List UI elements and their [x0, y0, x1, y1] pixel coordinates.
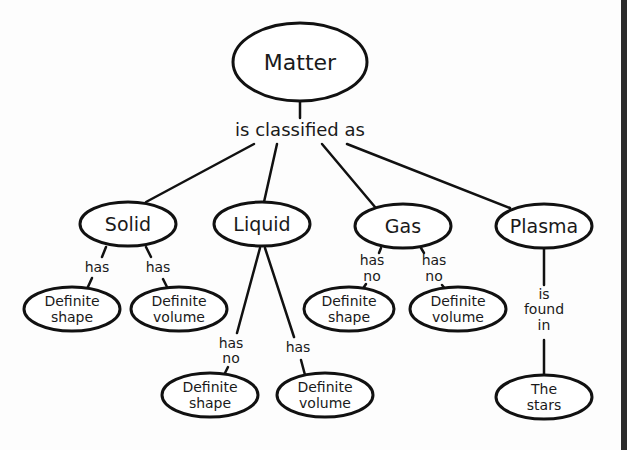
page-edge-bar [621, 0, 627, 450]
edge-link-to-solid [146, 144, 254, 202]
link-is-classified-as: is classified as [235, 119, 365, 140]
edge-link-to-gas [322, 144, 375, 207]
node-plasma: Plasma [496, 204, 592, 248]
leaf-label-line1: Definite [297, 379, 352, 395]
leaf-label-line2: shape [328, 309, 370, 325]
edge-solid-has-1a [102, 247, 106, 257]
edge-link-to-liquid [264, 144, 277, 202]
link-plasma-in: in [538, 317, 551, 333]
node-liquid: Liquid [214, 202, 310, 246]
leaf-label-line1: Definite [321, 293, 376, 309]
node-plasma-label: Plasma [510, 215, 578, 237]
link-plasma-found: found [524, 301, 564, 317]
leaf-label-line1: Definite [151, 293, 206, 309]
edge-liquid-hasno-a [237, 248, 260, 333]
edge-link-to-plasma [347, 144, 510, 208]
leaf-label-line1: Definite [430, 293, 485, 309]
node-gas: Gas [355, 204, 451, 248]
leaf-label-line2: shape [189, 395, 231, 411]
leaf-label-line2: volume [432, 309, 484, 325]
link-gas-has-no-1b: no [363, 268, 380, 284]
node-gas-label: Gas [385, 215, 421, 237]
node-solid: Solid [80, 202, 176, 246]
node-solid-definite-volume: Definite volume [131, 287, 227, 331]
link-liquid-has-no-2: no [222, 350, 239, 366]
link-solid-has-1: has [85, 259, 110, 275]
leaf-label-line2: volume [299, 395, 351, 411]
edge-liquid-has-b [301, 360, 305, 375]
node-solid-definite-shape: Definite shape [24, 287, 120, 331]
leaf-label-line2: shape [51, 309, 93, 325]
node-plasma-the-stars: The stars [496, 375, 592, 419]
leaf-label-line1: The [530, 381, 557, 397]
leaf-label-line2: stars [527, 397, 561, 413]
edge-solid-has-2a [146, 247, 151, 257]
diagram-svg: Matter is classified as Solid Liquid Gas… [0, 0, 627, 450]
link-liquid-has-no-1: has [219, 335, 244, 351]
leaf-label-line1: Definite [44, 293, 99, 309]
link-gas-has-no-2a: has [422, 252, 447, 268]
concept-map: Matter is classified as Solid Liquid Gas… [0, 0, 627, 450]
link-solid-has-2: has [146, 259, 171, 275]
link-gas-has-no-2b: no [425, 268, 442, 284]
node-gas-definite-volume: Definite volume [410, 287, 506, 331]
node-matter-label: Matter [264, 50, 337, 75]
edge-liquid-has-a [265, 248, 294, 337]
node-solid-label: Solid [105, 213, 151, 235]
leaf-label-line1: Definite [182, 379, 237, 395]
node-liquid-definite-shape: Definite shape [162, 373, 258, 417]
node-matter: Matter [233, 23, 367, 101]
leaf-label-line2: volume [153, 309, 205, 325]
link-gas-has-no-1a: has [360, 252, 385, 268]
node-liquid-definite-volume: Definite volume [277, 373, 373, 417]
link-liquid-has: has [286, 339, 311, 355]
node-gas-definite-shape: Definite shape [304, 287, 394, 331]
link-plasma-is: is [538, 286, 549, 302]
node-liquid-label: Liquid [233, 213, 290, 235]
